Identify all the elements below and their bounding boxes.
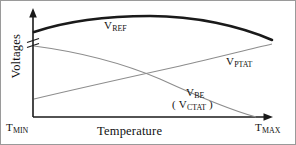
- y-axis-title: Voltages: [10, 24, 23, 88]
- v-ptat-base: V: [226, 55, 234, 67]
- v-ctat-open-paren: (: [172, 98, 176, 110]
- t-max-base: T: [255, 121, 262, 133]
- t-min-subscript: MIN: [13, 126, 28, 135]
- v-ptat-subscript: PTAT: [234, 60, 252, 69]
- x-axis-tick-t-min: TMIN: [6, 122, 28, 135]
- curve-label-v-ref: VREF: [104, 20, 127, 33]
- t-max-subscript: MAX: [262, 126, 280, 135]
- v-ctat-base: V: [179, 98, 187, 110]
- v-ctat-subscript: CTAT: [187, 103, 206, 112]
- t-min-base: T: [6, 121, 13, 133]
- x-axis-title: Temperature: [97, 125, 162, 138]
- v-ctat-close-paren: ): [209, 98, 213, 110]
- figure-border: [1, 1, 296, 145]
- curve-label-v-be: VBE: [186, 87, 204, 100]
- curve-label-v-ptat: VPTAT: [226, 56, 252, 69]
- v-be-base: V: [186, 86, 194, 98]
- v-ref-subscript: REF: [112, 24, 127, 33]
- x-axis-tick-t-max: TMAX: [255, 122, 280, 135]
- curve-label-v-ctat: ( VCTAT ): [172, 99, 213, 112]
- v-ref-base: V: [104, 19, 112, 31]
